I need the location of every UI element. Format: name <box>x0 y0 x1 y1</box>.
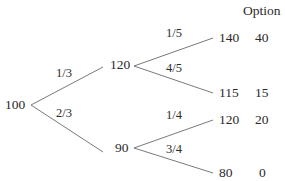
option-value-20: 20 <box>255 113 269 127</box>
option-column-header: Option <box>243 4 281 18</box>
leaf-value-140: 140 <box>219 31 239 45</box>
option-value-0: 0 <box>259 166 266 180</box>
prob-leaf-140: 1/5 <box>166 27 182 40</box>
leaf-value-80: 80 <box>219 166 233 180</box>
prob-down: 2/3 <box>56 107 72 120</box>
node-up: 120 <box>110 58 130 72</box>
prob-leaf-120: 1/4 <box>166 109 182 122</box>
option-value-15: 15 <box>255 86 269 100</box>
prob-leaf-80: 3/4 <box>166 143 182 156</box>
leaf-value-115: 115 <box>219 86 239 100</box>
node-root: 100 <box>5 98 25 112</box>
prob-up: 1/3 <box>56 67 72 80</box>
tree-edges <box>0 0 285 181</box>
prob-leaf-115: 4/5 <box>166 62 182 75</box>
option-value-40: 40 <box>255 31 269 45</box>
leaf-value-120: 120 <box>219 113 239 127</box>
node-down: 90 <box>115 141 129 155</box>
